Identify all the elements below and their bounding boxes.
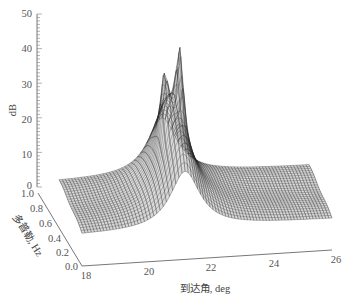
y-tick: 0.0 [65,261,78,272]
z-tick: 30 [22,79,33,90]
x-tick: 20 [144,266,155,277]
y-tick: 0.8 [30,203,43,214]
x-axis-label: 到达角, deg [180,283,231,294]
surface-plot: 50 40 30 20 10 0 dB 1.0 0.8 0.6 0.4 0.2 … [0,0,349,297]
z-tick: 20 [22,114,33,125]
x-tick: 26 [331,254,342,265]
z-tick: 40 [22,43,33,54]
x-tick: 22 [206,262,217,273]
surface-mesh [59,47,332,233]
z-axis-label: dB [7,104,18,116]
z-axis: 50 40 30 20 10 0 dB [7,8,42,191]
y-tick: 1.0 [21,188,34,199]
z-tick: 50 [22,8,33,19]
y-tick: 0.6 [39,218,52,229]
x-axis: 18 20 22 24 26 到达角, deg [81,250,342,294]
y-tick: 0.2 [56,247,69,258]
z-tick: 10 [22,149,33,160]
y-tick: 0.4 [48,233,62,244]
x-tick: 18 [81,270,92,281]
x-tick: 24 [269,258,280,269]
